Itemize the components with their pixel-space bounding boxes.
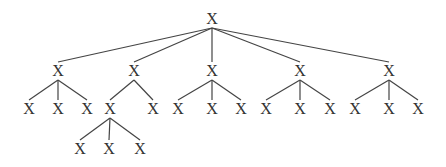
tree-edge — [80, 118, 110, 140]
tree-edge — [58, 28, 212, 62]
tree-node: X — [206, 100, 218, 117]
tree-edge — [300, 80, 330, 100]
tree-node: X — [412, 100, 424, 117]
tree-edge — [212, 80, 241, 100]
tree-edge — [212, 28, 389, 62]
tree-node: X — [23, 100, 35, 117]
tree-edge — [178, 80, 212, 100]
tree-node: X — [294, 100, 306, 117]
tree-edge — [29, 80, 58, 100]
tree-edge — [109, 118, 110, 140]
tree-node: X — [383, 100, 395, 117]
tree-edges — [29, 28, 418, 140]
tree-node: X — [324, 100, 336, 117]
tree-edge — [58, 80, 87, 100]
tree-node: X — [172, 100, 184, 117]
tree-node: X — [52, 100, 64, 117]
tree-node: X — [74, 140, 86, 157]
tree-edge — [389, 80, 418, 100]
tree-node: X — [134, 140, 146, 157]
tree-node: X — [103, 140, 115, 157]
tree-node: X — [147, 100, 159, 117]
tree-node: X — [294, 62, 306, 79]
tree-edge — [110, 118, 140, 140]
tree-node: X — [349, 100, 361, 117]
tree-node: X — [81, 100, 93, 117]
tree-diagram: XXXXXXXXXXXXXXXXXXXXXXX — [0, 0, 446, 167]
tree-edge — [355, 80, 389, 100]
tree-edge — [134, 80, 153, 100]
tree-edge — [134, 28, 212, 62]
tree-node: X — [260, 100, 272, 117]
tree-node: X — [206, 62, 218, 79]
tree-edge — [266, 80, 300, 100]
tree-node: X — [104, 100, 116, 117]
tree-node: X — [52, 62, 64, 79]
tree-node: X — [128, 62, 140, 79]
tree-edge — [212, 28, 300, 62]
tree-edge — [110, 80, 134, 100]
tree-node: X — [383, 62, 395, 79]
tree-node: X — [235, 100, 247, 117]
tree-node: X — [206, 10, 218, 27]
